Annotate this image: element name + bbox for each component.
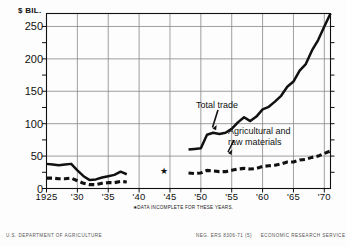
credit-department: U.S. DEPARTMENT OF AGRICULTURE (6, 233, 102, 238)
footnote-data-incomplete: ★DATA INCOMPLETE FOR THESE YEARS. (133, 205, 233, 210)
credit-neg-number: NEG. ERS 8306-71 (5) (196, 233, 252, 238)
credit-agency: NEG. ERS 8306-71 (5) ECONOMIC RESEARCH S… (196, 233, 347, 238)
plot-frame (47, 14, 331, 189)
chart-figure: $ BIL. 050100150200250 1925'30'35'40'45'… (0, 0, 347, 246)
incomplete-data-star-icon: ★ (160, 166, 168, 176)
credit-service-name: ECONOMIC RESEARCH SERVICE (261, 233, 346, 238)
leader-line-total-trade (213, 110, 219, 128)
annotation-agricultural-raw-materials: Agricultural and raw materials (228, 126, 291, 147)
annotation-total-trade: Total trade (196, 100, 238, 111)
series-line-agricultural (189, 151, 331, 174)
